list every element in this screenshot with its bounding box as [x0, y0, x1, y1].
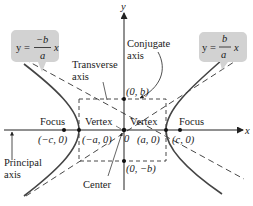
- principal-axis-label-line1: Principal: [4, 157, 42, 168]
- left-asymptote-lhs: y =: [16, 42, 30, 53]
- hyperbola-diagram: x y Focus (−c, 0) Vertex (−a, 0) Vertex …: [0, 0, 253, 206]
- left-vertex-point: [77, 128, 81, 132]
- right-vertex-coords: (a, 0): [137, 134, 160, 146]
- left-asymptote-denominator: a: [40, 50, 45, 61]
- transverse-axis-pointer: [103, 82, 107, 100]
- right-vertex-label: Vertex: [130, 116, 158, 127]
- right-asymptote-callout: y = b a x: [199, 32, 247, 70]
- top-co-vertex-coords: (0, b): [126, 86, 149, 98]
- left-vertex-pointer: [116, 126, 121, 129]
- bottom-co-vertex-coords: (0, −b): [126, 163, 156, 175]
- right-asymptote-var: x: [233, 42, 239, 53]
- asymptote-positive-slope: [26, 62, 234, 196]
- center-point: [122, 128, 126, 132]
- transverse-axis-label-line1: Transverse: [72, 59, 118, 70]
- right-asymptote-lhs: y =: [202, 42, 216, 53]
- right-focus-coords: (c, 0): [172, 134, 195, 146]
- right-vertex-point: [164, 128, 168, 132]
- left-asymptote-callout: y = −b a x: [11, 30, 59, 72]
- origin-label: 0: [124, 133, 130, 144]
- right-asymptote-denominator: a: [221, 49, 226, 60]
- transverse-axis-label-line2: axis: [72, 71, 89, 82]
- left-vertex-coords: (−a, 0): [82, 134, 112, 146]
- right-focus-point: [178, 128, 182, 132]
- x-axis-label: x: [244, 125, 250, 136]
- principal-axis-label-line2: axis: [4, 169, 21, 180]
- center-label: Center: [83, 179, 111, 190]
- left-focus-label: Focus: [40, 116, 65, 127]
- right-focus-label: Focus: [179, 116, 204, 127]
- left-focus-coords: (−c, 0): [38, 134, 68, 146]
- left-asymptote-numerator: −b: [36, 34, 48, 45]
- y-axis-label: y: [120, 1, 126, 12]
- right-asymptote-numerator: b: [222, 33, 227, 44]
- left-vertex-label: Vertex: [85, 116, 113, 127]
- top-co-vertex-point: [122, 97, 126, 101]
- left-asymptote-var: x: [53, 42, 59, 53]
- conjugate-axis-label-line2: axis: [127, 50, 144, 61]
- conjugate-axis-label-line1: Conjugate: [127, 38, 170, 49]
- hyperbola-right-branch: [166, 60, 222, 194]
- left-focus-point: [62, 128, 66, 132]
